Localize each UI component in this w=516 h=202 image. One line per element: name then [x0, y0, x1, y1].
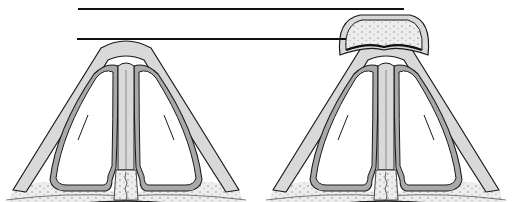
right-cross-section	[266, 41, 506, 202]
diagram-figure	[0, 0, 516, 202]
elevated-cap	[339, 15, 428, 55]
left-cross-section	[6, 41, 246, 202]
